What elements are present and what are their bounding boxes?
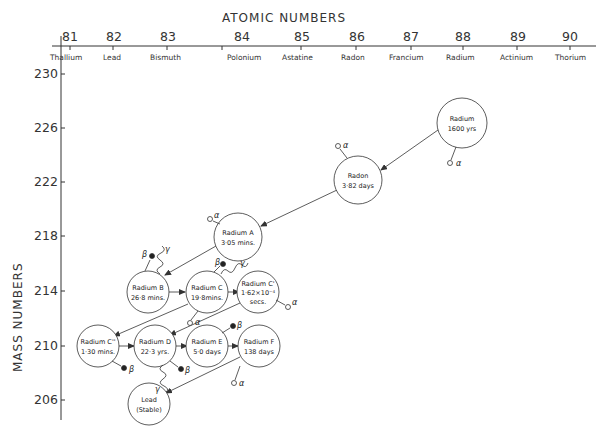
node-name: Radium C' [241,280,274,288]
node-name: Radon [348,172,369,180]
svg-text:α: α [195,318,201,327]
element-label: Actinium [500,53,533,62]
tick-label: 206 [34,392,58,407]
element-label: Thorium [554,53,586,62]
tick-label: 88 [455,29,471,44]
svg-text:β: β [141,250,147,259]
alpha-radium-c-prime: α [276,298,298,310]
alpha-radium: α [448,147,463,168]
node-halflife: 26·8 mins. [131,294,165,302]
alpha-radon: α [336,141,350,158]
element-label: Polonium [227,53,261,62]
radium-decay-series-diagram: ATOMIC NUMBERS MASS NUMBERS 81Thallium 8… [0,0,608,431]
node-radium-d [134,325,176,367]
node-halflife: 5·0 days [193,348,221,356]
tick-label: 89 [510,29,526,44]
node-radium-c-double-prime [77,325,119,367]
tick-label: 90 [562,29,578,44]
node-radium-c [186,271,228,313]
beta-radium-e: β [222,321,242,333]
alpha-radium-a: α [208,211,221,224]
svg-text:α: α [214,211,220,220]
node-halflife: 1600 yrs [448,125,477,133]
y-tick-230: 230 [34,66,65,81]
y-axis-title: MASS NUMBERS [11,263,25,373]
y-tick-214: 214 [34,283,65,298]
node-name: Radium A [222,229,254,237]
tick-label: 81 [62,29,78,44]
node-radium-e [186,325,228,367]
node-radium-a [214,213,262,261]
node-halflife: 3·82 days [342,182,374,190]
element-label: Lead [103,53,121,62]
alpha-radium-c: α [188,311,202,327]
svg-text:β: β [184,366,190,375]
element-label: Thallium [49,53,82,62]
node-name: Radium C'' [81,338,116,346]
y-tick-210: 210 [34,338,65,353]
tick-label: 85 [294,29,310,44]
beta-radium-d: β [170,361,190,375]
y-tick-218: 218 [34,228,65,243]
beta-radium-c-double-prime: β [112,361,134,374]
y-ticks: 230 226 222 218 214 210 206 [34,66,65,407]
node-halflife: 1·30 mins. [81,348,115,356]
node-name: Radium F [244,338,275,346]
node-halflife-unit: secs. [250,298,266,306]
node-radium [437,98,487,148]
tick-label: 230 [34,66,58,81]
node-name: Radium [450,115,475,123]
node-halflife: 3·05 mins. [221,239,255,247]
gamma-radium-c: γ [221,259,248,274]
element-label: Francium [389,53,423,62]
beta-radium-b: β [141,250,155,271]
node-labels: Radium 1600 yrs Radon 3·82 days Radium A… [81,115,477,414]
node-halflife: 138 days [244,348,274,356]
svg-text:α: α [456,159,462,168]
node-name: Lead [141,396,157,404]
tick-label: 82 [106,29,122,44]
gamma-emissions: γ γ γ [155,245,248,394]
svg-text:α: α [343,141,349,150]
tick-label: 218 [34,228,58,243]
tick-label: 214 [34,283,58,298]
svg-text:β: β [236,321,242,330]
gamma-radium-b: γ [157,245,171,274]
node-name: Radium C [191,284,223,292]
node-radium-b [127,271,169,313]
node-radium-f [238,325,280,367]
tick-label: 226 [34,120,58,135]
y-tick-206: 206 [34,392,65,407]
svg-text:α: α [239,379,245,388]
node-lead-stable [128,383,170,425]
arrow-radon-to-radium-a [261,190,337,226]
y-tick-222: 222 [34,174,65,189]
svg-text:γ: γ [165,245,171,254]
x-axis-title: ATOMIC NUMBERS [222,11,346,25]
node-name: Radium E [192,338,223,346]
alpha-emissions: α α α α α α [188,141,463,388]
tick-label: 87 [403,29,419,44]
tick-label: 222 [34,174,58,189]
element-label: Bismuth [150,53,181,62]
node-name: Radium D [139,338,171,346]
element-label: Radon [341,53,365,62]
element-label: Radium [446,53,475,62]
node-radon [334,156,382,204]
alpha-radium-f: α [232,366,246,388]
arrow-radium-to-radon [381,130,438,170]
tick-label: 210 [34,338,58,353]
nodes [77,98,487,425]
node-halflife: 19·8mins. [191,294,223,302]
y-tick-226: 226 [34,120,65,135]
tick-label: 83 [160,29,176,44]
node-status: (Stable) [136,406,162,414]
node-name: Radium B [132,284,163,292]
element-label: Astatine [282,53,313,62]
svg-text:β: β [214,258,220,267]
tick-label: 84 [234,29,250,44]
node-halflife: 1·62×10⁻⁴ [241,289,276,297]
tick-label: 86 [349,29,365,44]
svg-text:α: α [292,298,298,307]
node-halflife: 22·3 yrs. [141,348,170,356]
